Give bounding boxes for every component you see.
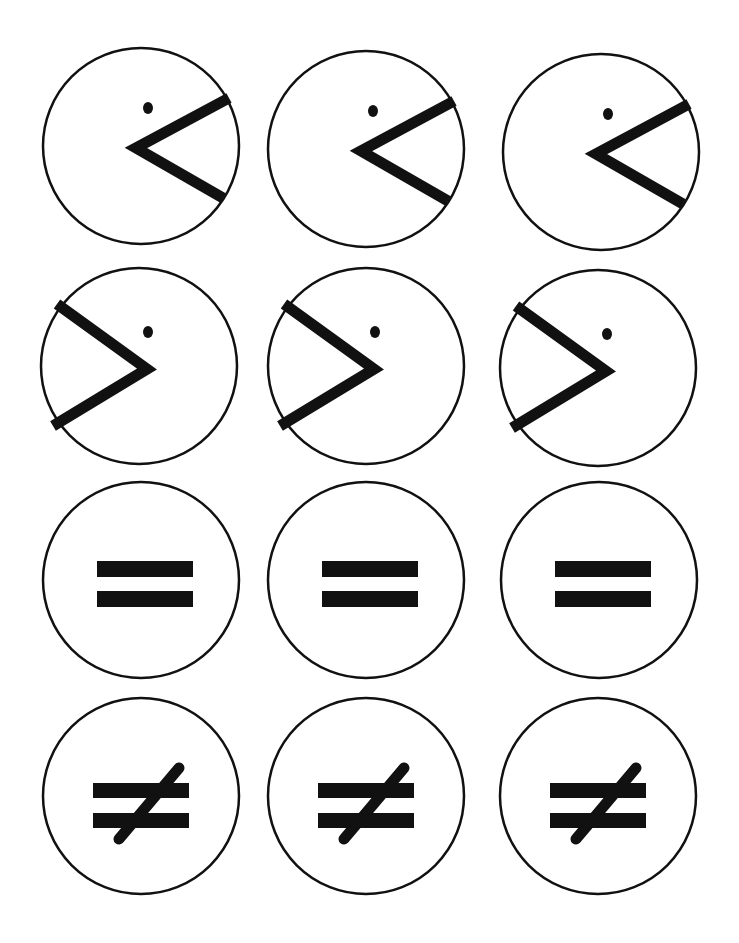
less-than-symbol-card: < — [39, 266, 239, 466]
equal-symbol-card: = — [41, 480, 241, 680]
equal-symbol-card: = — [266, 480, 466, 680]
less-than-icon — [39, 266, 239, 466]
greater-than-icon — [266, 49, 466, 249]
less-than-symbol-card: < — [498, 268, 698, 468]
not-equal-symbol-card: ≠ — [498, 696, 698, 896]
less-than-icon — [266, 266, 466, 466]
equal-icon — [266, 480, 466, 680]
equal-symbol-card: = — [499, 480, 699, 680]
not-equal-icon — [41, 696, 241, 896]
not-equal-icon — [498, 696, 698, 896]
equal-icon — [41, 480, 241, 680]
greater-than-icon — [41, 46, 241, 246]
greater-than-symbol-card: > — [501, 52, 701, 252]
equal-icon — [499, 480, 699, 680]
greater-than-symbol-card: > — [266, 49, 466, 249]
greater-than-symbol-card: > — [41, 46, 241, 246]
not-equal-symbol-card: ≠ — [266, 696, 466, 896]
less-than-icon — [498, 268, 698, 468]
not-equal-symbol-card: ≠ — [41, 696, 241, 896]
greater-than-icon — [501, 52, 701, 252]
not-equal-icon — [266, 696, 466, 896]
less-than-symbol-card: < — [266, 266, 466, 466]
comparison-symbols-worksheet: >>><<<===≠≠≠ — [0, 0, 739, 943]
